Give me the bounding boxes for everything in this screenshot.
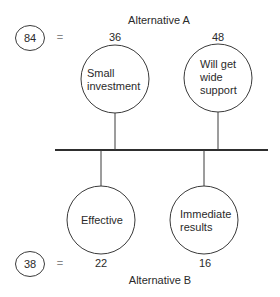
alternative-a-title: Alternative A [128, 14, 190, 26]
alternative-a-total-score: 84 [24, 32, 36, 44]
decision-diagram [0, 0, 280, 297]
alternative-b-equals: = [57, 257, 63, 269]
factor-label-effective: Effective [81, 214, 123, 227]
factor-score-effective: 22 [95, 257, 107, 269]
factor-label-small-investment: Small investment [87, 67, 140, 93]
factor-label-wide-support: Will get wide support [200, 58, 237, 97]
alternative-b-title: Alternative B [129, 274, 191, 286]
factor-score-small-investment: 36 [109, 31, 121, 43]
alternative-a-equals: = [57, 31, 63, 43]
factor-score-immediate-results: 16 [199, 257, 211, 269]
factor-score-wide-support: 48 [212, 31, 224, 43]
alternative-b-total-score: 38 [24, 258, 36, 270]
factor-label-immediate-results: Immediate results [180, 208, 231, 234]
